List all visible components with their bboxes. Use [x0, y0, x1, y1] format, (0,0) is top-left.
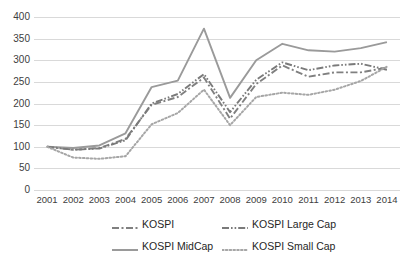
y-tick-label-200: 200 — [2, 99, 30, 109]
x-tick-label-2006: 2006 — [167, 194, 188, 206]
legend-swatch-icon — [112, 241, 138, 251]
x-tick-label-2004: 2004 — [115, 194, 136, 206]
legend-swatch-icon — [112, 219, 138, 229]
legend-label: KOSPI — [142, 218, 174, 230]
y-tick-label-50: 50 — [2, 163, 30, 173]
plot-area — [34, 17, 400, 190]
legend-item-kospi-large-cap[interactable]: KOSPI Large Cap — [222, 218, 336, 230]
legend-item-kospi-midcap[interactable]: KOSPI MidCap — [112, 240, 213, 252]
gridline-0 — [34, 190, 400, 191]
legend-label: KOSPI Small Cap — [252, 240, 335, 252]
y-tick-label-300: 300 — [2, 55, 30, 65]
y-tick-label-100: 100 — [2, 142, 30, 152]
y-tick-label-350: 350 — [2, 34, 30, 44]
series-lines — [34, 17, 400, 190]
legend-item-kospi[interactable]: KOSPI — [112, 218, 174, 230]
x-tick-label-2009: 2009 — [246, 194, 267, 206]
legend-label: KOSPI MidCap — [142, 240, 213, 252]
y-tick-label-0: 0 — [2, 185, 30, 195]
y-tick-label-400: 400 — [2, 12, 30, 22]
y-tick-label-150: 150 — [2, 120, 30, 130]
legend-swatch-icon — [222, 219, 248, 229]
x-axis-labels: 2001200220032004200520062007200820092010… — [34, 192, 400, 208]
chart-legend: KOSPIKOSPI Large Cap KOSPI MidCapKOSPI S… — [0, 218, 408, 263]
legend-swatch-icon — [222, 241, 248, 251]
x-tick-label-2013: 2013 — [350, 194, 371, 206]
y-tick-label-250: 250 — [2, 77, 30, 87]
x-tick-label-2001: 2001 — [36, 194, 57, 206]
x-tick-label-2008: 2008 — [219, 194, 240, 206]
x-tick-label-2012: 2012 — [324, 194, 345, 206]
x-tick-label-2005: 2005 — [141, 194, 162, 206]
legend-item-kospi-small-cap[interactable]: KOSPI Small Cap — [222, 240, 335, 252]
x-tick-label-2002: 2002 — [63, 194, 84, 206]
legend-label: KOSPI Large Cap — [252, 218, 336, 230]
x-tick-label-2011: 2011 — [298, 194, 318, 206]
x-tick-label-2014: 2014 — [376, 194, 397, 206]
x-tick-label-2007: 2007 — [193, 194, 214, 206]
x-tick-label-2010: 2010 — [272, 194, 293, 206]
line-chart: 050100150200250300350400 200120022003200… — [0, 0, 408, 263]
y-axis-labels: 050100150200250300350400 — [0, 0, 30, 190]
x-tick-label-2003: 2003 — [89, 194, 110, 206]
